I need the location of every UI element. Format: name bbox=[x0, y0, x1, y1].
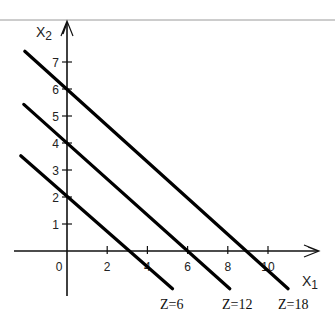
isoprofit-chart: X2X1 02468101234567 Z=6Z=12Z=18 bbox=[0, 0, 335, 323]
y-tick-label: 7 bbox=[52, 56, 59, 70]
iso-line-label-18: Z=18 bbox=[278, 297, 308, 312]
y-tick-label: 2 bbox=[52, 191, 59, 205]
iso-line-label-12: Z=12 bbox=[222, 297, 252, 312]
x-tick-label: 8 bbox=[224, 260, 231, 274]
y-tick-label: 5 bbox=[52, 110, 59, 124]
axes: X2X1 bbox=[14, 21, 319, 296]
x-tick-label: 0 bbox=[56, 260, 63, 274]
y-tick-label: 3 bbox=[52, 164, 59, 178]
y-tick-label: 4 bbox=[52, 137, 59, 151]
x-axis-label: X1 bbox=[302, 273, 318, 292]
x-tick-label: 2 bbox=[104, 260, 111, 274]
line-labels: Z=6Z=12Z=18 bbox=[160, 297, 308, 312]
x-tick-label: 6 bbox=[184, 260, 191, 274]
iso-lines bbox=[21, 51, 288, 289]
iso-line-6 bbox=[21, 156, 173, 289]
y-tick-label: 6 bbox=[52, 83, 59, 97]
y-tick-label: 1 bbox=[52, 218, 59, 232]
ticks: 02468101234567 bbox=[52, 56, 275, 274]
y-axis-label: X2 bbox=[36, 24, 52, 43]
iso-line-label-6: Z=6 bbox=[160, 297, 183, 312]
